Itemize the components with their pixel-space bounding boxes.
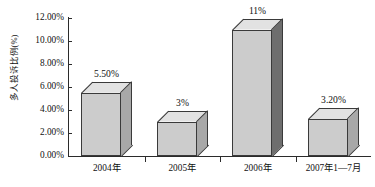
y-axis-tick-mark [68, 41, 72, 42]
x-axis-category-label: 2007年1—7月 [296, 163, 372, 174]
bar-column [157, 111, 208, 157]
bar-value-label: 3.20% [296, 95, 371, 105]
y-axis-tick-mark [68, 87, 72, 88]
bar-front-face [232, 30, 272, 157]
y-axis-tick-label: 2.00% [20, 128, 64, 137]
bar-value-label: 11% [220, 6, 295, 16]
y-axis-title: 多人投诉比例(%) [7, 13, 19, 123]
bar-chart: 多人投诉比例(%) 0.00%2.00%4.00%6.00%8.00%10.00… [0, 0, 375, 187]
bar-edge [168, 111, 208, 112]
bar-value-label: 3% [145, 98, 220, 108]
bar-edge [131, 82, 132, 145]
bar-front-face [157, 122, 197, 157]
bar-column [232, 19, 283, 157]
x-axis-tick-mark [145, 157, 146, 162]
y-axis-tick-mark [68, 133, 72, 134]
y-axis-tick-mark [68, 64, 72, 65]
y-axis-tick-labels: 0.00%2.00%4.00%6.00%8.00%10.00%12.00% [20, 0, 64, 187]
bar-front-face [308, 119, 348, 156]
y-axis-tick-label: 12.00% [20, 13, 64, 22]
bar-value-label: 5.50% [69, 69, 144, 79]
bar-edge [319, 108, 359, 109]
bar-column [81, 82, 132, 156]
bar-edge [358, 108, 359, 145]
x-axis-tick-mark [296, 157, 297, 162]
bar-edge [282, 19, 283, 146]
bar-edge [207, 111, 208, 146]
y-axis-tick-label: 10.00% [20, 36, 64, 45]
bar-edge [243, 19, 283, 20]
x-axis-category-label: 2004年 [69, 163, 145, 174]
y-axis-tick-label: 4.00% [20, 105, 64, 114]
x-axis-category-label: 2006年 [220, 163, 296, 174]
y-axis-tick-mark [68, 18, 72, 19]
bar-column [308, 108, 359, 156]
x-axis-category-label: 2005年 [145, 163, 221, 174]
y-axis-tick-label: 8.00% [20, 59, 64, 68]
y-axis-tick-mark [68, 110, 72, 111]
y-axis-tick-label: 6.00% [20, 82, 64, 91]
bar-edge [92, 82, 132, 83]
x-axis-tick-mark [220, 157, 221, 162]
bar-front-face [81, 93, 121, 156]
y-axis-tick-label: 0.00% [20, 151, 64, 160]
